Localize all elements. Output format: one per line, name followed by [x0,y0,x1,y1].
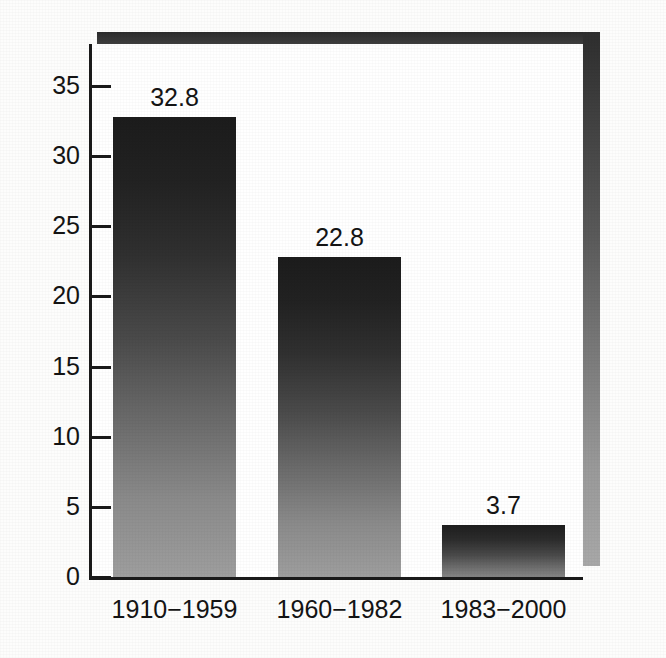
bar-value-label: 32.8 [113,85,236,110]
y-tick-label: 10 [0,424,80,449]
y-tick-label: 20 [0,283,80,308]
right-shadow-band [583,32,600,566]
y-tick-label: 25 [0,213,80,238]
y-tick-mark [92,506,111,509]
y-tick-mark [92,85,111,88]
y-tick-label: 5 [0,494,80,519]
x-axis-line [89,577,583,580]
bar-value-label: 3.7 [442,493,565,518]
bar [113,117,236,577]
y-tick-mark [92,576,111,579]
y-tick-mark [92,436,111,439]
y-tick-mark [92,366,111,369]
x-category-label: 1910−1959 [91,597,258,622]
y-tick-label: 35 [0,73,80,98]
y-tick-mark [92,155,111,158]
y-tick-label: 15 [0,354,80,379]
bar-value-label: 22.8 [278,225,401,250]
y-tick-label: 0 [0,564,80,589]
bar [278,257,401,577]
bar [442,525,565,577]
y-tick-mark [92,295,111,298]
y-tick-mark [92,225,111,228]
x-category-label: 1983−2000 [420,597,587,622]
y-axis-line [89,44,92,580]
bar-chart-figure: 05101520253035 32.822.83.7 1910−19591960… [0,0,666,658]
y-tick-label: 30 [0,143,80,168]
x-category-label: 1960−1982 [256,597,423,622]
